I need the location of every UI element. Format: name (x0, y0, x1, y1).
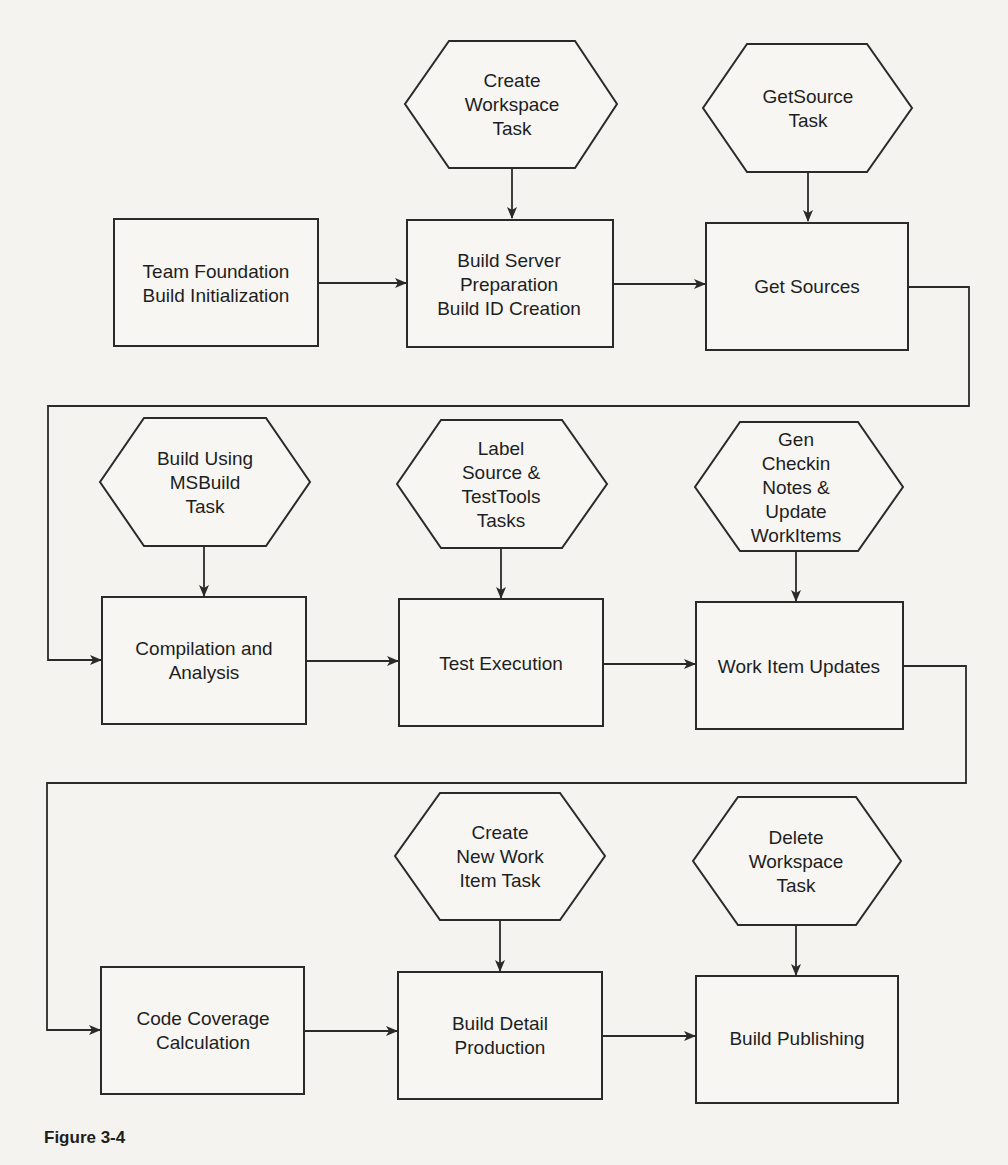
node-label-line: Create (471, 822, 528, 843)
node-label: Test Execution (439, 653, 563, 674)
node-label-line: Build ID Creation (437, 298, 581, 319)
task-gen-checkin-notes: GenCheckinNotes &UpdateWorkItems (695, 422, 903, 551)
node-label-line: Tasks (477, 510, 526, 531)
step-get-sources: Get Sources (706, 223, 908, 350)
flow-diagram: CreateWorkspaceTask GetSourceTask Team F… (0, 0, 1008, 1165)
step-build-publishing: Build Publishing (696, 976, 898, 1103)
hexagon-shape (703, 44, 912, 172)
node-label-line: Get Sources (754, 276, 860, 297)
node-label-line: Compilation and (135, 638, 272, 659)
step-build-server-preparation: Build ServerPreparationBuild ID Creation (407, 220, 613, 347)
node-label-line: Preparation (460, 274, 558, 295)
box-shape (102, 597, 306, 724)
node-label-line: Build Using (157, 448, 253, 469)
task-create-workspace: CreateWorkspaceTask (405, 41, 617, 168)
box-shape (398, 972, 602, 1099)
task-create-new-work-item: CreateNew WorkItem Task (395, 793, 605, 920)
node-label-line: TestTools (461, 486, 540, 507)
node-label-line: Analysis (169, 662, 240, 683)
box-shape (114, 219, 318, 346)
node-label-line: Work Item Updates (718, 656, 880, 677)
node-label-line: Task (492, 118, 532, 139)
figure-caption: Figure 3-4 (44, 1128, 125, 1148)
node-label-line: Gen (778, 429, 814, 450)
node-label: Work Item Updates (718, 656, 880, 677)
step-team-foundation-build-initialization: Team FoundationBuild Initialization (114, 219, 318, 346)
task-build-using-msbuild: Build UsingMSBuildTask (100, 418, 310, 546)
step-compilation-and-analysis: Compilation andAnalysis (102, 597, 306, 724)
node-label-line: Update (765, 501, 826, 522)
task-delete-workspace: DeleteWorkspaceTask (693, 797, 901, 925)
step-code-coverage-calculation: Code CoverageCalculation (101, 967, 304, 1094)
node-label-line: Task (185, 496, 225, 517)
step-work-item-updates: Work Item Updates (696, 602, 903, 729)
node-label-line: Build Initialization (143, 285, 290, 306)
node-label-line: Workspace (465, 94, 560, 115)
node-label-line: GetSource (763, 86, 854, 107)
step-test-execution: Test Execution (399, 599, 603, 726)
step-build-detail-production: Build DetailProduction (398, 972, 602, 1099)
node-label-line: Build Detail (452, 1013, 548, 1034)
node-label-line: Code Coverage (136, 1008, 269, 1029)
node-label-line: Notes & (762, 477, 830, 498)
node-label-line: Checkin (762, 453, 831, 474)
node-label: Get Sources (754, 276, 860, 297)
node-label-line: Workspace (749, 851, 844, 872)
task-label-source-testtools: LabelSource &TestToolsTasks (397, 420, 607, 548)
node-label-line: Build Server (457, 250, 561, 271)
task-getsource: GetSourceTask (703, 44, 912, 172)
node-label-line: Create (483, 70, 540, 91)
node-label-line: Delete (769, 827, 824, 848)
node-label-line: WorkItems (751, 525, 841, 546)
node-label-line: New Work (456, 846, 544, 867)
node-label-line: Team Foundation (143, 261, 290, 282)
node-label-line: Label (478, 438, 525, 459)
node-label-line: Source & (462, 462, 540, 483)
node-label-line: Task (788, 110, 828, 131)
node-label: Build Publishing (729, 1028, 864, 1049)
node-label-line: Test Execution (439, 653, 563, 674)
node-label-line: Calculation (156, 1032, 250, 1053)
box-shape (101, 967, 304, 1094)
node-label-line: Task (776, 875, 816, 896)
node-label-line: Build Publishing (729, 1028, 864, 1049)
node-label-line: Production (455, 1037, 546, 1058)
node-label-line: MSBuild (170, 472, 241, 493)
node-label-line: Item Task (460, 870, 541, 891)
